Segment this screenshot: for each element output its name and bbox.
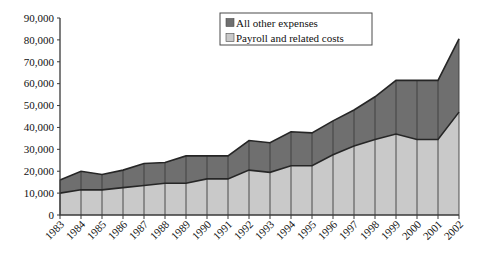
x-tick-label: 1992: [231, 218, 255, 242]
y-tick-label: 0: [49, 209, 55, 221]
x-tick-label: 1996: [315, 218, 339, 242]
x-axis-ticks: 1983198419851986198719881989199019911992…: [42, 215, 465, 242]
x-tick-label: 2000: [399, 218, 423, 242]
x-tick-label: 1995: [294, 218, 318, 242]
y-tick-label: 20,000: [24, 165, 55, 177]
y-tick-label: 70,000: [24, 56, 55, 68]
y-tick-label: 60,000: [24, 77, 55, 89]
legend-swatch-icon: [226, 34, 234, 42]
y-tick-label: 90,000: [24, 12, 55, 24]
x-tick-label: 1991: [210, 218, 234, 242]
legend-item: Payroll and related costs: [226, 32, 344, 44]
x-tick-label: 1988: [147, 218, 171, 242]
x-tick-label: 1984: [63, 218, 87, 242]
legend-item: All other expenses: [226, 17, 318, 29]
legend-swatch-icon: [226, 19, 234, 27]
x-tick-label: 2002: [441, 218, 465, 242]
stacked-area-chart: 010,00020,00030,00040,00050,00060,00070,…: [0, 0, 477, 271]
y-tick-label: 30,000: [24, 143, 55, 155]
y-tick-label: 40,000: [24, 121, 55, 133]
x-tick-label: 1998: [357, 218, 381, 242]
chart-canvas: 010,00020,00030,00040,00050,00060,00070,…: [0, 0, 477, 271]
y-tick-label: 10,000: [24, 187, 55, 199]
x-tick-label: 1986: [105, 218, 129, 242]
x-tick-label: 2001: [420, 218, 444, 242]
x-tick-label: 1999: [378, 218, 402, 242]
x-tick-label: 1997: [336, 218, 360, 242]
x-tick-label: 1985: [84, 218, 108, 242]
chart-legend: All other expensesPayroll and related co…: [220, 13, 372, 45]
x-tick-label: 1983: [42, 218, 66, 242]
x-tick-label: 1993: [252, 218, 276, 242]
y-axis-ticks: 010,00020,00030,00040,00050,00060,00070,…: [24, 12, 60, 221]
y-tick-label: 80,000: [24, 34, 55, 46]
x-tick-label: 1989: [168, 218, 192, 242]
x-tick-label: 1994: [273, 218, 297, 242]
x-tick-label: 1990: [189, 218, 213, 242]
y-tick-label: 50,000: [24, 99, 55, 111]
legend-item-label: Payroll and related costs: [236, 32, 344, 44]
legend-item-label: All other expenses: [236, 17, 318, 29]
x-tick-label: 1987: [126, 218, 150, 242]
